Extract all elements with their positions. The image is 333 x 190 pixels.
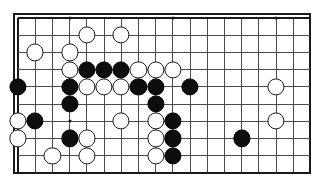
grid-line-vertical xyxy=(138,18,139,173)
black-stone[interactable] xyxy=(147,78,164,95)
white-stone[interactable] xyxy=(78,147,95,164)
grid-line-vertical xyxy=(258,18,259,173)
black-stone[interactable] xyxy=(9,78,26,95)
white-stone[interactable] xyxy=(61,44,78,61)
black-stone[interactable] xyxy=(78,61,95,78)
grid-line-vertical xyxy=(190,18,191,173)
black-stone[interactable] xyxy=(61,130,78,147)
go-diagram-scene xyxy=(0,0,333,190)
white-stone[interactable] xyxy=(113,27,130,44)
black-stone[interactable] xyxy=(61,78,78,95)
black-stone[interactable] xyxy=(27,113,44,130)
black-stone[interactable] xyxy=(61,95,78,112)
black-stone[interactable] xyxy=(233,130,250,147)
black-stone[interactable] xyxy=(164,113,181,130)
white-stone[interactable] xyxy=(267,113,284,130)
white-stone[interactable] xyxy=(147,61,164,78)
black-stone[interactable] xyxy=(164,147,181,164)
grid-line-horizontal xyxy=(18,35,310,36)
black-stone[interactable] xyxy=(95,61,112,78)
grid-line-vertical xyxy=(17,18,19,173)
white-stone[interactable] xyxy=(113,78,130,95)
grid-line-horizontal xyxy=(18,172,310,174)
white-stone[interactable] xyxy=(113,113,130,130)
white-stone[interactable] xyxy=(44,147,61,164)
star-point xyxy=(68,17,71,20)
grid-line-vertical xyxy=(104,18,105,173)
black-stone[interactable] xyxy=(164,130,181,147)
white-stone[interactable] xyxy=(61,61,78,78)
white-stone[interactable] xyxy=(147,147,164,164)
grid-line-horizontal xyxy=(18,17,310,19)
grid-line-vertical xyxy=(207,18,208,173)
star-point xyxy=(171,17,174,20)
go-board-surface[interactable] xyxy=(15,15,309,172)
black-stone[interactable] xyxy=(181,78,198,95)
grid-line-vertical xyxy=(276,18,277,173)
white-stone[interactable] xyxy=(78,27,95,44)
grid-line-vertical xyxy=(241,18,242,173)
white-stone[interactable] xyxy=(95,78,112,95)
white-stone[interactable] xyxy=(267,78,284,95)
white-stone[interactable] xyxy=(130,61,147,78)
star-point xyxy=(275,17,278,20)
white-stone[interactable] xyxy=(164,61,181,78)
white-stone[interactable] xyxy=(27,44,44,61)
white-stone[interactable] xyxy=(147,130,164,147)
white-stone[interactable] xyxy=(78,78,95,95)
white-stone[interactable] xyxy=(78,130,95,147)
white-stone[interactable] xyxy=(9,113,26,130)
grid-line-vertical xyxy=(35,18,36,173)
black-stone[interactable] xyxy=(147,95,164,112)
black-stone[interactable] xyxy=(113,61,130,78)
grid-line-vertical xyxy=(224,18,225,173)
go-board-frame[interactable] xyxy=(13,13,311,174)
grid-line-vertical xyxy=(309,18,311,173)
white-stone[interactable] xyxy=(147,113,164,130)
white-stone[interactable] xyxy=(9,130,26,147)
black-stone[interactable] xyxy=(130,78,147,95)
grid-line-vertical xyxy=(293,18,294,173)
star-point xyxy=(68,120,71,123)
